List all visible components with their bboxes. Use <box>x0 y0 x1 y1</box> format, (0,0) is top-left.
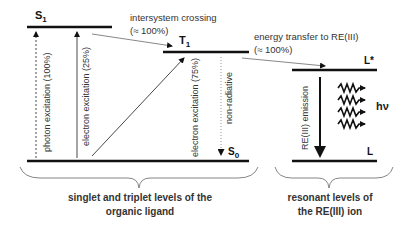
level-l-label: L <box>367 146 373 157</box>
electron-excitation-triplet-label: electron excitation (75%) <box>190 58 200 157</box>
et-line1: energy transfer to RE(III) <box>254 30 359 43</box>
non-radiative-label: non-radiative <box>224 72 234 124</box>
ligand-caption-line2: organic ligand <box>40 205 240 219</box>
ion-caption-line1: resonant levels of <box>280 191 380 205</box>
s0-letter: S <box>228 146 235 157</box>
electron-excitation-singlet-label: electron excitation (25%) <box>81 47 91 146</box>
ion-caption: resonant levels of the RE(III) ion <box>280 191 380 219</box>
isc-line2: (≈ 100%) <box>130 24 217 37</box>
ligand-caption-line1: singlet and triplet levels of the <box>40 191 240 205</box>
s0-subscript: 0 <box>235 151 239 160</box>
ligand-caption: singlet and triplet levels of the organi… <box>40 191 240 219</box>
ion-brace <box>275 167 393 188</box>
level-s1-label: S1 <box>35 9 47 24</box>
t1-subscript: 1 <box>186 40 190 49</box>
photon-emission-label: hν <box>376 100 389 112</box>
et-line2: (≈ 100%) <box>254 43 359 56</box>
intersystem-crossing-label: intersystem crossing (≈ 100%) <box>130 11 217 37</box>
energy-transfer-arrow <box>242 58 325 66</box>
energy-transfer-label: energy transfer to RE(III) (≈ 100%) <box>254 30 359 56</box>
s1-subscript: 1 <box>42 15 46 24</box>
level-lstar-label: L* <box>364 55 374 66</box>
electron-excitation-triplet-arrow <box>92 58 184 156</box>
re-emission-label: RE(III) emission <box>300 86 310 150</box>
isc-line1: intersystem crossing <box>130 11 217 24</box>
photon-emission-wavy-arrows <box>338 84 365 128</box>
photon-excitation-label: photon excitation (100%) <box>42 52 52 152</box>
ion-caption-line2: the RE(III) ion <box>280 205 380 219</box>
ligand-brace <box>20 167 258 188</box>
level-s0-label: S0 <box>228 146 239 160</box>
